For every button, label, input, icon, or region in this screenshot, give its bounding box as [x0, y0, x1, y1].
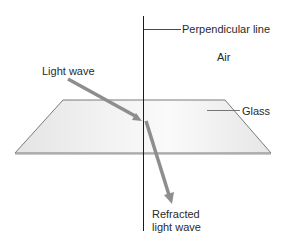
label-air: Air: [217, 51, 231, 63]
refraction-diagram: Perpendicular line Air Light wave Glass …: [0, 0, 285, 250]
label-perpendicular-line: Perpendicular line: [182, 23, 270, 35]
label-refracted-line2: light wave: [152, 221, 201, 233]
arrowhead-icon: [164, 192, 174, 204]
label-glass: Glass: [242, 105, 271, 117]
label-refracted-line1: Refracted: [152, 208, 200, 220]
label-light-wave: Light wave: [42, 65, 95, 77]
